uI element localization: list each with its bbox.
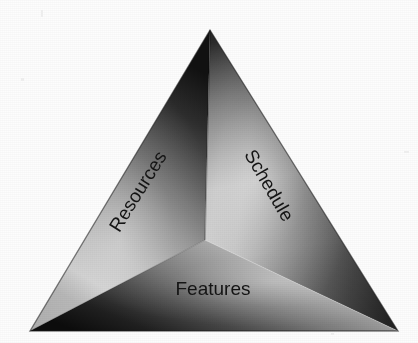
triangle-diagram-canvas: Resources Schedule Features: [0, 0, 418, 343]
label-features: Features: [176, 278, 251, 299]
triangle-diagram-svg: Resources Schedule Features: [0, 0, 418, 343]
